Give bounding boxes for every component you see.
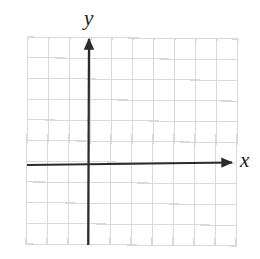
y-axis-line <box>88 39 89 245</box>
coordinate-plane-canvas <box>0 0 260 259</box>
y-axis-label: y <box>84 8 93 29</box>
x-axis-label: x <box>240 150 249 171</box>
coordinate-plane-figure: y x <box>0 0 260 259</box>
